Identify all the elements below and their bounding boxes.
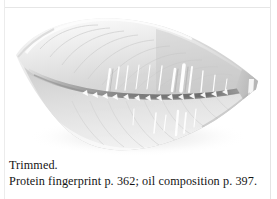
fish-fillet-illustration [6,9,269,157]
caption-line-trimmed: Trimmed. [9,158,271,174]
frame-rule-left [4,0,5,199]
caption-line-references: Protein fingerprint p. 362; oil composit… [9,174,271,190]
frame-rule-top [5,7,271,8]
figure-caption: Trimmed. Protein fingerprint p. 362; oil… [9,158,271,189]
figure-page: Trimmed. Protein fingerprint p. 362; oil… [0,0,277,199]
fish-fillet-photo [6,9,269,157]
